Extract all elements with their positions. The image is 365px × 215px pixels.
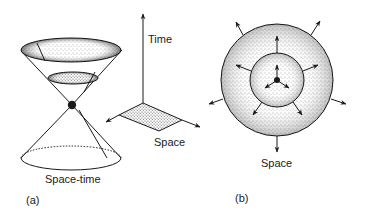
expanding-space-diagram	[209, 21, 346, 152]
space-axis-arrow-left-icon	[106, 115, 119, 122]
worldline-lower-segment	[79, 110, 107, 158]
space-plane	[119, 103, 182, 131]
outer-arrow-upleft-icon	[236, 22, 243, 35]
event-point-icon	[68, 101, 76, 109]
outer-arrow-left-icon	[209, 99, 223, 104]
panel-b-label: (b)	[235, 192, 248, 204]
past-cone-left-edge	[21, 105, 72, 158]
space-axis-arrow-right-icon	[182, 120, 200, 127]
outer-arrow-upright-icon	[311, 21, 320, 35]
space-axis-label: Space	[154, 136, 185, 148]
space-time-caption: Space-time	[45, 173, 101, 185]
outer-arrow-right-icon	[331, 99, 346, 104]
space-caption-b: Space	[261, 157, 292, 169]
past-cone-base-front	[21, 158, 121, 170]
panel-a-label: (a)	[26, 194, 39, 206]
time-axis-label: Time	[148, 33, 172, 45]
past-cone-right-edge	[72, 105, 121, 158]
space-time-axes	[106, 14, 200, 131]
light-cone	[21, 38, 122, 170]
